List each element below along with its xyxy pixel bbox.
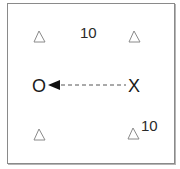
pass-arrow-icon [48,80,126,90]
cone-top-left-icon [34,31,45,42]
cone-bottom-right-icon [128,128,139,139]
cone-top-right-icon [129,31,140,42]
cone-bottom-left-icon [34,129,45,140]
distance-label-top: 10 [80,25,97,40]
distance-label-right: 10 [141,118,158,133]
player-o: O [32,77,46,95]
player-x: X [128,77,140,95]
